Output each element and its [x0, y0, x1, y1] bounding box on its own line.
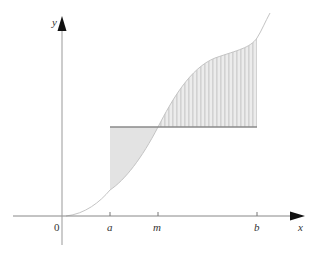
tick-label-a: a [107, 221, 113, 233]
lower-shaded-region [110, 127, 158, 190]
origin-label: 0 [54, 221, 60, 233]
tick-label-b: b [254, 221, 260, 233]
diagram-canvas: y x 0 a m b [0, 0, 319, 260]
y-axis-arrow-icon [58, 16, 67, 31]
x-axis-label: x [297, 221, 303, 233]
upper-striped-region [158, 38, 257, 127]
x-axis-arrow-icon [290, 212, 305, 221]
tick-label-m: m [153, 221, 161, 233]
y-axis-label: y [51, 16, 57, 28]
